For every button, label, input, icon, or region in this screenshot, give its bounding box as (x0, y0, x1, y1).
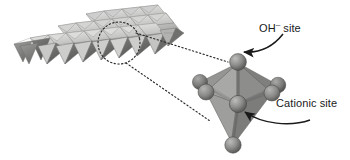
vertex-sphere-bottom (225, 137, 241, 153)
vertex-sphere-top-oh-site (230, 54, 247, 71)
vertex-sphere-left (198, 84, 214, 100)
center-sphere-cationic-site (229, 95, 246, 112)
oh-site-label: OH– site (259, 20, 301, 34)
oh-site-label-tail: site (283, 22, 301, 34)
octahedral-sheet (14, 5, 184, 64)
single-octahedron (192, 54, 285, 154)
dotted-line-icon (136, 33, 228, 62)
oh-site-arrow (244, 34, 283, 52)
figure-octahedral-sheet-diagram: OH– site Cationic site (0, 0, 350, 160)
dotted-line-icon (126, 63, 210, 121)
oh-site-label-main: OH (259, 22, 276, 34)
oh-site-charge-superscript: – (276, 20, 280, 29)
cationic-site-label: Cationic site (276, 97, 337, 109)
